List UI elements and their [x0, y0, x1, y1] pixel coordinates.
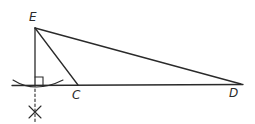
- triangle-construction-diagram: E C D: [0, 0, 255, 124]
- label-e: E: [29, 10, 37, 24]
- right-angle-mark: [35, 77, 43, 86]
- segment-ed: [35, 28, 241, 84]
- label-d: D: [229, 86, 238, 100]
- label-c: C: [72, 88, 81, 102]
